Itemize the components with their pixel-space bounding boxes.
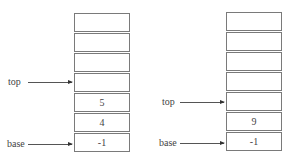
stack-cell xyxy=(226,72,282,91)
stack-cell: 9 xyxy=(226,112,282,131)
stack-cell xyxy=(226,32,282,51)
stack-cell-top xyxy=(74,73,130,92)
base-pointer-arrow-icon xyxy=(28,144,72,145)
base-pointer-arrow-icon xyxy=(180,143,224,144)
top-pointer-arrow-icon xyxy=(28,82,72,83)
stack-cell-base: -1 xyxy=(226,132,282,151)
stack-cell xyxy=(226,12,282,31)
base-pointer-label: base xyxy=(7,139,25,149)
top-pointer-label: top xyxy=(162,97,175,107)
stack-cell xyxy=(74,33,130,52)
stack-cell xyxy=(226,52,282,71)
top-pointer-arrow-icon xyxy=(180,102,224,103)
stack-cell: 4 xyxy=(74,113,130,132)
stack-cell-base: -1 xyxy=(74,133,130,152)
stack-cell: 5 xyxy=(74,93,130,112)
stack-cell xyxy=(74,53,130,72)
base-pointer-label: base xyxy=(159,138,177,148)
stack-cell xyxy=(74,13,130,32)
top-pointer-label: top xyxy=(8,77,21,87)
stack-cell-top xyxy=(226,92,282,111)
